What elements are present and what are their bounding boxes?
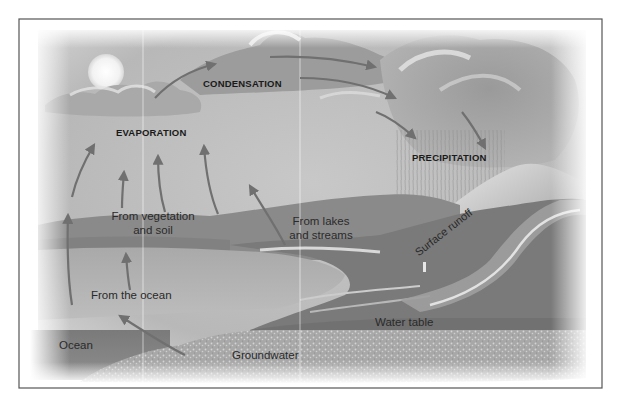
from-lakes-line1: From lakes: [281, 216, 361, 228]
from-lakes-line2: and streams: [281, 230, 361, 242]
groundwater-label: Groundwater: [232, 350, 298, 362]
precipitation-label: PRECIPITATION: [412, 153, 487, 163]
diagram-illustration: [0, 0, 621, 404]
water-table-label: Water table: [375, 317, 433, 329]
from-vegetation-line1: From vegetation: [106, 211, 200, 223]
from-lakes-label: From lakes and streams: [281, 216, 361, 241]
water-cycle-diagram: CONDENSATION EVAPORATION PRECIPITATION F…: [0, 0, 621, 404]
condensation-label: CONDENSATION: [203, 79, 282, 89]
from-vegetation-line2: and soil: [106, 225, 200, 237]
evaporation-label: EVAPORATION: [116, 128, 186, 138]
from-vegetation-label: From vegetation and soil: [106, 211, 200, 236]
ocean-label: Ocean: [59, 340, 93, 352]
sun-icon: [88, 54, 124, 90]
from-ocean-label: From the ocean: [91, 290, 172, 302]
